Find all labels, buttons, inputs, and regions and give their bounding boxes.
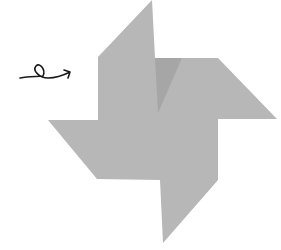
pinwheel-diagram [0,0,281,250]
